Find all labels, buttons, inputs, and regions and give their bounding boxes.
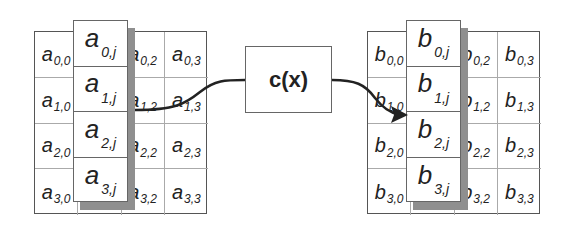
input-to-function-curve xyxy=(135,80,245,110)
flow-arrows xyxy=(0,0,565,228)
arrowhead-icon xyxy=(391,106,408,123)
function-to-output-curve xyxy=(332,80,398,114)
